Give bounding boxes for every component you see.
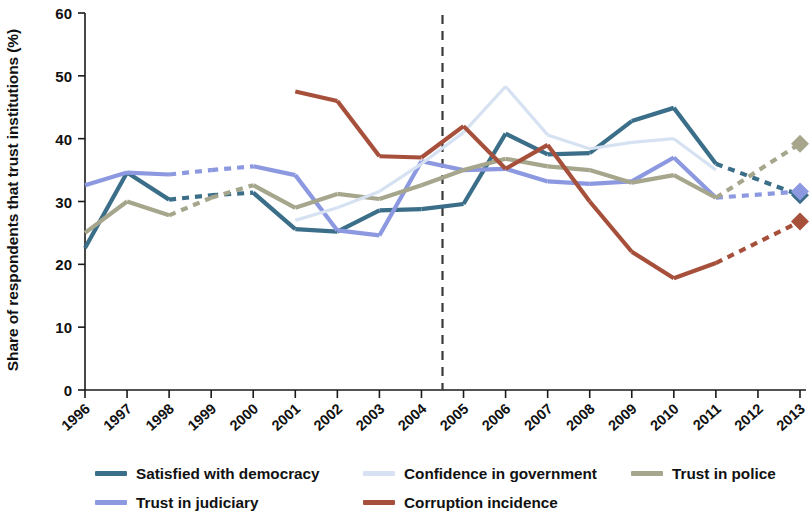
series-corruption-incidence [295, 92, 809, 279]
legend-item-satisfied-with-democracy[interactable]: Satisfied with democracy [95, 466, 363, 481]
legend-label-corruption-incidence: Corruption incidence [404, 495, 558, 510]
legend-item-trust-in-police[interactable]: Trust in police [631, 466, 807, 481]
legend-item-confidence-in-government[interactable]: Confidence in government [363, 466, 631, 481]
legend-item-trust-in-judiciary[interactable]: Trust in judiciary [95, 495, 363, 510]
svg-text:60: 60 [55, 5, 72, 22]
svg-text:2012: 2012 [731, 400, 766, 433]
series-trust-in-judiciary [85, 158, 809, 236]
legend-item-corruption-incidence[interactable]: Corruption incidence [363, 495, 631, 510]
svg-text:2013: 2013 [773, 400, 808, 433]
legend-swatch-corruption-incidence [363, 500, 395, 505]
svg-text:40: 40 [55, 131, 72, 148]
marker-corruption-incidence [791, 213, 809, 231]
legend-swatch-satisfied-with-democracy [95, 471, 127, 476]
svg-text:10: 10 [55, 319, 72, 336]
svg-text:50: 50 [55, 68, 72, 85]
series-confidence-in-government [295, 87, 716, 221]
svg-text:2005: 2005 [437, 400, 472, 433]
svg-text:2009: 2009 [605, 400, 640, 433]
legend-label-confidence-in-government: Confidence in government [404, 466, 597, 481]
legend-swatch-trust-in-judiciary [95, 500, 127, 505]
chart-legend: Satisfied with democracy Confidence in g… [95, 466, 807, 524]
svg-text:20: 20 [55, 256, 72, 273]
svg-text:2004: 2004 [395, 400, 430, 433]
plot-area: 0102030405060199619971998199920002001200… [0, 0, 812, 462]
svg-text:1996: 1996 [58, 400, 93, 433]
legend-label-trust-in-police: Trust in police [672, 466, 776, 481]
legend-swatch-confidence-in-government [363, 471, 395, 476]
legend-row-2: Trust in judiciary Corruption incidence [95, 495, 807, 524]
svg-text:30: 30 [55, 194, 72, 211]
svg-text:1997: 1997 [100, 400, 135, 433]
y-axis-ticks: 0102030405060 [55, 5, 85, 399]
svg-text:2010: 2010 [647, 400, 682, 433]
svg-text:2011: 2011 [690, 400, 724, 433]
axes [85, 13, 806, 390]
chart-page: Share of respondents that trust institut… [0, 0, 812, 525]
svg-text:2000: 2000 [227, 400, 262, 433]
x-axis-ticks: 1996199719981999200020012002200320042005… [58, 390, 808, 434]
legend-swatch-trust-in-police [631, 471, 663, 476]
svg-text:0: 0 [64, 382, 72, 399]
svg-text:2002: 2002 [311, 400, 346, 433]
svg-text:1999: 1999 [184, 400, 219, 433]
legend-label-satisfied-with-democracy: Satisfied with democracy [136, 466, 320, 481]
svg-text:2007: 2007 [521, 400, 556, 433]
svg-text:1998: 1998 [142, 400, 177, 433]
legend-label-trust-in-judiciary: Trust in judiciary [136, 495, 258, 510]
svg-text:2008: 2008 [563, 400, 598, 433]
legend-row-1: Satisfied with democracy Confidence in g… [95, 466, 807, 495]
line-chart-svg: 0102030405060199619971998199920002001200… [0, 0, 812, 462]
svg-text:2001: 2001 [269, 400, 304, 433]
svg-text:2003: 2003 [353, 400, 388, 433]
svg-text:2006: 2006 [479, 400, 514, 433]
